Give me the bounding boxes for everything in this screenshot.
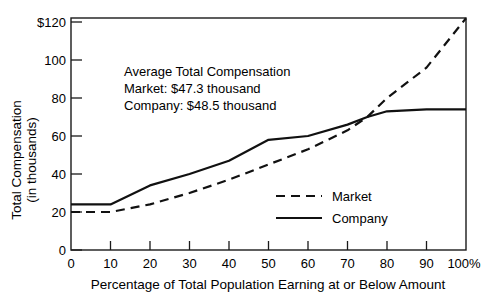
x-tick-label: 30 <box>182 256 196 271</box>
annotation-line: Average Total Compensation <box>124 64 290 79</box>
legend-label-company: Company <box>332 211 388 226</box>
x-axis-tick-labels: 0 10 20 30 40 50 60 70 80 90 100% <box>67 256 481 271</box>
x-tick-label: 100% <box>447 256 481 271</box>
x-tick-label: 40 <box>222 256 236 271</box>
x-tick-label: 60 <box>301 256 315 271</box>
annotation-block: Average Total Compensation Market: $47.3… <box>124 64 290 113</box>
x-axis-ticks <box>111 241 427 250</box>
x-tick-label: 70 <box>340 256 354 271</box>
series-line-market <box>71 18 466 212</box>
annotation-line: Market: $47.3 thousand <box>124 81 261 96</box>
y-axis-title-line2: (in thousands) <box>24 117 39 203</box>
x-tick-label: 0 <box>67 256 74 271</box>
legend: Market Company <box>276 189 388 226</box>
chart-container: $120 100 80 60 40 20 0 0 10 20 30 40 <box>0 0 491 295</box>
y-axis-ticks <box>71 22 82 250</box>
y-tick-label: 80 <box>52 91 66 106</box>
y-axis-title: Total Compensation (in thousands) <box>9 100 39 219</box>
y-tick-label: 40 <box>52 167 66 182</box>
y-tick-label: 20 <box>52 205 66 220</box>
x-tick-label: 90 <box>419 256 433 271</box>
y-tick-label: $120 <box>37 15 66 30</box>
y-tick-label: 60 <box>52 129 66 144</box>
x-tick-label: 50 <box>261 256 275 271</box>
plot-frame <box>71 18 466 250</box>
y-axis-title-line1: Total Compensation <box>9 100 24 219</box>
annotation-line: Company: $48.5 thousand <box>124 98 277 113</box>
x-tick-label: 10 <box>103 256 117 271</box>
y-tick-label: 100 <box>44 53 66 68</box>
y-axis-tick-labels: $120 100 80 60 40 20 0 <box>37 15 66 258</box>
x-tick-label: 80 <box>380 256 394 271</box>
legend-label-market: Market <box>332 189 372 204</box>
y-tick-label: 0 <box>59 243 66 258</box>
x-tick-label: 20 <box>143 256 157 271</box>
series-line-company <box>71 109 466 204</box>
x-axis-title: Percentage of Total Population Earning a… <box>91 277 446 292</box>
line-chart: $120 100 80 60 40 20 0 0 10 20 30 40 <box>0 0 491 295</box>
